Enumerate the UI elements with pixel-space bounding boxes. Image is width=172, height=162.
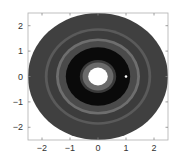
- y-tick-label: −1: [13, 97, 23, 107]
- ring-8: [88, 68, 108, 86]
- y-tick-label: 2: [18, 21, 23, 31]
- x-tick-label: 2: [151, 143, 156, 153]
- y-tick-label: 1: [18, 46, 23, 56]
- y-tick-label: 0: [18, 72, 23, 82]
- annular-intensity-map: [28, 13, 168, 140]
- x-tick-label: −1: [65, 143, 75, 153]
- chart-figure: −2−1012 −2−1012: [0, 0, 172, 162]
- y-tick-label: −2: [13, 122, 23, 132]
- x-tick-label: 0: [95, 143, 100, 153]
- x-tick-label: 1: [123, 143, 128, 153]
- bright-spot: [125, 75, 128, 78]
- x-tick-label: −2: [37, 143, 47, 153]
